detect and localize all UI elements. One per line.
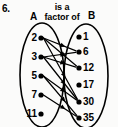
element-label: 30 <box>83 97 94 107</box>
element-dot <box>38 111 43 116</box>
element-dot <box>38 73 43 78</box>
element-label: 17 <box>83 80 94 90</box>
mapping-arrow <box>43 38 76 51</box>
mapping-arrow <box>43 76 77 116</box>
element-dot <box>38 35 43 40</box>
element-dot <box>76 115 81 120</box>
element-label: 12 <box>83 63 94 73</box>
element-label: 11 <box>26 109 37 119</box>
element-dot <box>76 49 81 54</box>
arrowhead <box>60 43 66 47</box>
element-dot <box>38 54 43 59</box>
diagram-canvas <box>0 0 118 127</box>
element-label: 7 <box>31 90 37 100</box>
mapping-arrow <box>43 52 75 57</box>
element-label: 1 <box>83 32 89 42</box>
element-dot <box>76 34 81 39</box>
factor-mapping-diagram: 6. A B is a factor of 2357111612173035 <box>0 0 118 127</box>
element-label: 5 <box>31 71 37 81</box>
element-label: 6 <box>83 47 89 57</box>
element-dot <box>76 82 81 87</box>
mapping-arrow <box>43 95 76 116</box>
element-label: 2 <box>31 33 37 43</box>
element-dot <box>76 65 81 70</box>
element-label: 3 <box>31 52 37 62</box>
element-dot <box>38 92 43 97</box>
element-dot <box>76 99 81 104</box>
element-label: 35 <box>83 113 94 123</box>
